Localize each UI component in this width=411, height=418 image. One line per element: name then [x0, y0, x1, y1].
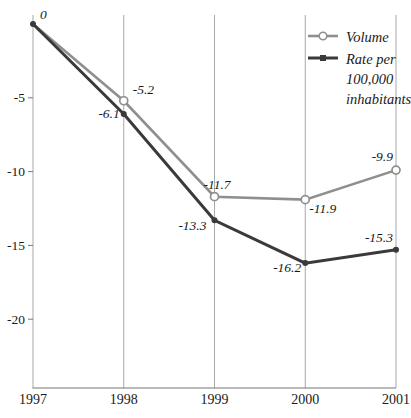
data-point-volume — [301, 196, 309, 204]
y-tick-label: -5 — [14, 90, 25, 105]
point-label: -15.3 — [365, 230, 393, 245]
legend-item-rate: Rate per 100,000 inhabitants — [307, 49, 411, 109]
x-tick-label: 2000 — [291, 392, 319, 407]
legend-rate-line-1: Rate per — [346, 49, 411, 69]
point-label: 0 — [40, 7, 47, 22]
legend-rate-line-3: inhabitants — [346, 89, 411, 109]
volume-line-swatch — [307, 31, 339, 41]
legend-rate-line-2: 100,000 — [346, 69, 411, 89]
data-point-volume — [211, 193, 219, 201]
x-tick-label: 1999 — [201, 392, 229, 407]
x-tick-label: 1998 — [110, 392, 138, 407]
data-point-rate — [30, 21, 36, 27]
point-label: -13.3 — [178, 218, 206, 233]
data-point-rate — [121, 111, 127, 117]
point-label: -11.9 — [309, 201, 336, 216]
data-point-volume — [120, 97, 128, 105]
x-tick-label: 1997 — [19, 392, 47, 407]
point-label: -16.2 — [273, 260, 301, 275]
chart-panel: -5-10-15-20199719981999200020010-5.2-11.… — [0, 0, 411, 418]
filled-square-marker-icon — [320, 55, 326, 61]
open-circle-marker-icon — [319, 32, 327, 40]
y-tick-label: -10 — [7, 164, 25, 179]
data-point-rate — [302, 260, 308, 266]
y-tick-label: -20 — [7, 312, 25, 327]
legend-label-rate: Rate per 100,000 inhabitants — [346, 49, 411, 109]
data-point-rate — [212, 217, 218, 223]
legend: Volume Rate per 100,000 inhabitants — [307, 27, 411, 109]
y-tick-label: -15 — [7, 238, 25, 253]
point-label: -6.1 — [98, 106, 119, 121]
rate-line-swatch — [307, 53, 339, 63]
point-label: -11.7 — [204, 177, 232, 192]
point-label: -5.2 — [133, 82, 155, 97]
legend-item-volume: Volume — [307, 27, 411, 47]
legend-label-volume: Volume — [346, 27, 389, 47]
data-point-volume — [392, 166, 400, 174]
point-label: -9.9 — [372, 149, 394, 164]
data-point-rate — [393, 247, 399, 253]
x-tick-label: 2001 — [382, 392, 410, 407]
